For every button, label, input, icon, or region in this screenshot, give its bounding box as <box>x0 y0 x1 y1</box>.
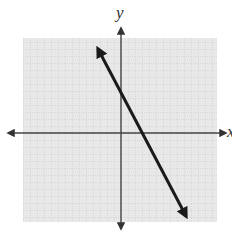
y-axis-label: y <box>116 3 124 23</box>
grid-area <box>23 38 217 222</box>
x-axis-label: x <box>227 122 232 142</box>
coordinate-plane <box>0 0 232 232</box>
